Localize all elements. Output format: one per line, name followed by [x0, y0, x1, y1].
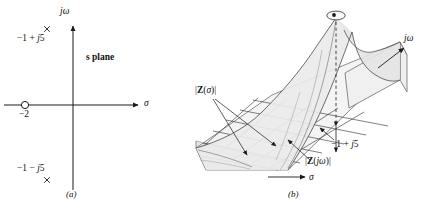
pole-upper-label: −1 + j5 [17, 34, 45, 44]
s-plane-label: s plane [86, 53, 114, 63]
axis-label-jw-a: jω [60, 7, 69, 17]
axis-label-jw-b: jω [404, 34, 413, 44]
axis-label-sigma-b: σ [309, 173, 314, 183]
pole-lower-label: −1 − j5 [17, 164, 45, 174]
zero-label: −2 [19, 110, 29, 120]
s-plane-label-text: s plane [86, 52, 114, 62]
figure-graphics [0, 0, 423, 208]
surface-sigma-label: |Z(σ)| [195, 86, 216, 96]
pole-location-label-b: −1 + j5 [331, 140, 359, 150]
axis-label-sigma-a: σ [144, 99, 149, 109]
pole-marker-lower [44, 177, 50, 183]
surface-jw-label: |Z(jω)| [305, 157, 331, 167]
figure-container: jω σ s plane −1 + j5 −1 − j5 −2 (a) |Z(σ… [0, 0, 423, 208]
panel-b-graphics [196, 11, 407, 177]
caption-a: (a) [66, 190, 77, 199]
zero-marker [21, 101, 28, 108]
pole-marker-upper [44, 26, 50, 32]
caption-b: (b) [288, 190, 299, 199]
